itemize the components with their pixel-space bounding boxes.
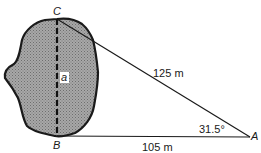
length-ac-label: 125 m <box>153 67 184 79</box>
point-c-label: C <box>53 5 61 17</box>
label-a: a <box>61 71 67 83</box>
diagram-canvas: a C B A 125 m 105 m 31.5° <box>0 0 261 153</box>
segment-ba <box>57 136 250 137</box>
obstacle-region <box>5 19 98 137</box>
angle-a-label: 31.5° <box>199 123 225 135</box>
point-a-label: A <box>250 130 258 142</box>
point-b-label: B <box>53 139 60 151</box>
length-ab-label: 105 m <box>142 141 173 153</box>
